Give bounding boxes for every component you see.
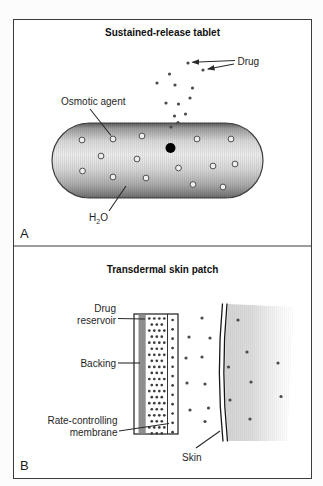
rate-membrane-label-line1: Rate-controlling [47,415,117,426]
water-label-o: O [100,212,108,223]
tablet-texture [52,123,263,198]
skin-label: Skin [182,452,201,463]
figure: Sustained-release tablet Drug Osmotic ag… [0,0,323,486]
panel-b-title: Transdermal skin patch [107,264,219,275]
backing-label: Backing [80,358,116,369]
panel-a-title: Sustained-release tablet [105,27,221,38]
tablet-orifice [166,143,176,153]
drug-reservoir-label-line2: reservoir [77,315,117,326]
drug-label: Drug [238,56,260,67]
drug-reservoir-label-line1: Drug [94,303,116,314]
patch-backing-layer [139,315,146,434]
osmotic-agent-label: Osmotic agent [61,96,126,107]
rate-membrane-label-line2: membrane [70,427,118,438]
panel-b-tag: B [20,458,29,473]
water-label-h: H [89,212,96,223]
drug-reservoir-leader-line [118,319,145,320]
panel-a-tag: A [20,226,29,241]
skin-tissue-texture [225,304,294,441]
diagram-canvas: Sustained-release tablet Drug Osmotic ag… [0,0,323,486]
